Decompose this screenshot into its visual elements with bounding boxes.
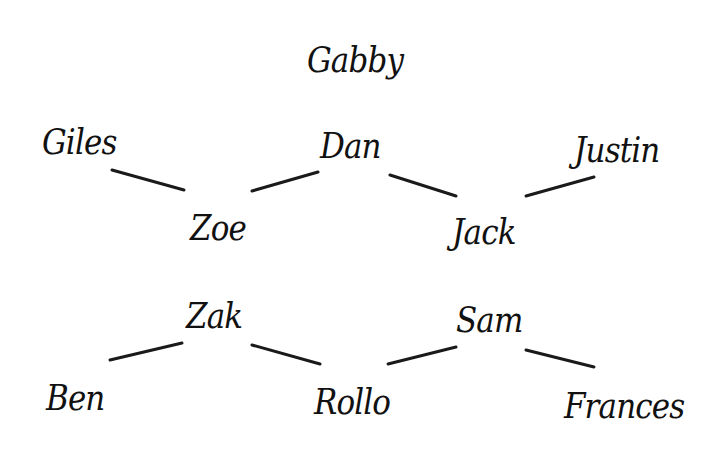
node-sam: Sam [456, 302, 522, 338]
edge-dan-zoe [252, 172, 318, 191]
edge-justin-jack [526, 177, 594, 196]
node-justin: Justin [574, 132, 659, 168]
node-dan: Dan [320, 128, 381, 164]
node-jack: Jack [452, 214, 516, 250]
edge-zak-rollo [252, 345, 320, 364]
edge-sam-rollo [388, 347, 456, 364]
node-gabby: Gabby [307, 42, 403, 78]
node-ben: Ben [46, 380, 104, 416]
node-frances: Frances [564, 388, 684, 424]
edge-sam-frances [526, 350, 594, 367]
edge-giles-zoe [112, 170, 184, 190]
node-giles: Giles [42, 124, 116, 160]
node-zoe: Zoe [190, 210, 246, 246]
diagram-canvas: Gabby Giles Dan Justin Zoe Jack Zak Sam … [0, 0, 728, 452]
node-zak: Zak [186, 298, 242, 334]
node-rollo: Rollo [314, 384, 390, 420]
edge-dan-jack [390, 175, 456, 196]
edge-zak-ben [110, 343, 182, 360]
